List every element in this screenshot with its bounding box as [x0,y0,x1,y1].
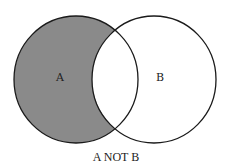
diagram-caption: A NOT B [93,150,139,164]
set-b-label: B [156,71,164,84]
venn-diagram: A B A NOT B [0,0,232,167]
set-b-circle [92,16,216,143]
set-a-label: A [55,71,65,84]
